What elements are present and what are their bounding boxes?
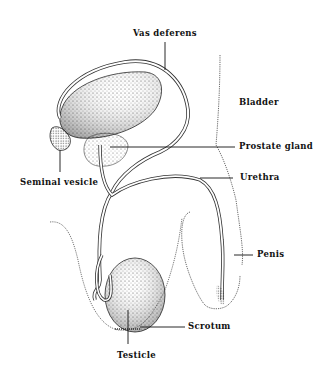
prostate-shape (84, 133, 128, 166)
label-seminal-vesicle: Seminal vesicle (20, 177, 98, 187)
label-prostate-gland: Prostate gland (239, 141, 313, 151)
label-urethra: Urethra (240, 172, 280, 182)
testicle-shape (105, 258, 165, 332)
label-bladder: Bladder (239, 97, 279, 107)
label-vas-deferens: Vas deferens (133, 28, 197, 38)
label-testicle: Testicle (117, 350, 156, 360)
reproductive-system-diagram (0, 0, 328, 381)
label-scrotum: Scrotum (188, 321, 231, 331)
penis-outline (182, 212, 240, 309)
label-penis: Penis (257, 249, 284, 259)
